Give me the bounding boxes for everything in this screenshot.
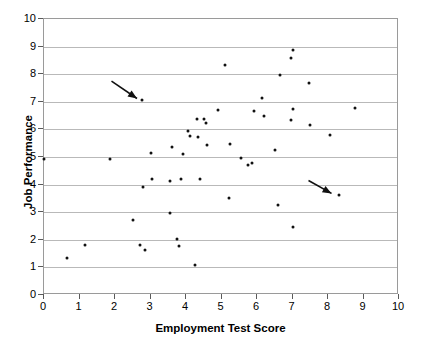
x-tick-label: 2 xyxy=(102,300,126,312)
x-tick-mark xyxy=(292,294,293,299)
x-tick-label: 10 xyxy=(386,300,410,312)
x-tick-mark xyxy=(327,294,328,299)
y-tick-label: 6 xyxy=(14,122,36,134)
x-tick-mark xyxy=(256,294,257,299)
y-tick-label: 3 xyxy=(14,205,36,217)
y-tick-label: 7 xyxy=(14,95,36,107)
y-tick-label: 4 xyxy=(14,178,36,190)
x-axis-title: Employment Test Score xyxy=(43,322,398,334)
y-tick-label: 5 xyxy=(14,150,36,162)
x-tick-mark xyxy=(398,294,399,299)
arrow-upper-left-head xyxy=(128,90,138,98)
x-tick-label: 4 xyxy=(173,300,197,312)
x-tick-label: 5 xyxy=(209,300,233,312)
annotations-layer xyxy=(44,19,399,295)
plot-area xyxy=(43,18,398,294)
y-tick-label: 0 xyxy=(14,288,36,300)
scatter-plot-figure: Job Performance 012345678910 01234567891… xyxy=(0,0,426,350)
x-tick-label: 7 xyxy=(280,300,304,312)
y-tick-label: 9 xyxy=(14,40,36,52)
x-tick-mark xyxy=(363,294,364,299)
y-tick-label: 2 xyxy=(14,233,36,245)
y-tick-label: 10 xyxy=(14,12,36,24)
x-tick-mark xyxy=(221,294,222,299)
x-tick-label: 8 xyxy=(315,300,339,312)
x-tick-label: 3 xyxy=(138,300,162,312)
x-tick-mark xyxy=(185,294,186,299)
x-tick-label: 1 xyxy=(67,300,91,312)
x-tick-mark xyxy=(114,294,115,299)
y-tick-label: 8 xyxy=(14,67,36,79)
x-tick-label: 6 xyxy=(244,300,268,312)
x-tick-mark xyxy=(79,294,80,299)
x-tick-mark xyxy=(43,294,44,299)
x-tick-label: 0 xyxy=(31,300,55,312)
x-tick-mark xyxy=(150,294,151,299)
x-tick-label: 9 xyxy=(351,300,375,312)
y-tick-label: 1 xyxy=(14,260,36,272)
